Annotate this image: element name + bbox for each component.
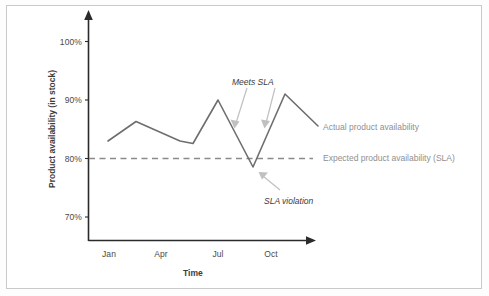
y-tick-label-100: 100%	[52, 37, 82, 47]
x-axis-title: Time	[183, 268, 203, 278]
chart-figure: 100% 90% 80% 70% Jan Apr Jul Oct Product…	[0, 0, 489, 296]
meets-sla-arrow-right-head	[261, 120, 270, 129]
y-axis-title: Product availability (in stock)	[47, 70, 57, 188]
legend-label-actual: Actual product availability	[323, 122, 419, 132]
x-tick-label-jan: Jan	[89, 249, 129, 259]
annotation-meets-sla: Meets SLA	[232, 77, 274, 87]
annotation-sla-violation: SLA violation	[264, 196, 313, 206]
meets-sla-arrow-left-shaft	[236, 88, 247, 123]
legend-label-expected: Expected product availability (SLA)	[323, 153, 455, 163]
y-axis-arrowhead	[84, 10, 93, 20]
sla-violation-arrow-shaft	[263, 176, 280, 190]
x-tick-label-oct: Oct	[251, 249, 291, 259]
x-axis-arrowhead	[306, 236, 316, 245]
actual-availability-line	[108, 94, 318, 167]
y-tick-label-70: 70%	[52, 212, 82, 222]
x-tick-label-jul: Jul	[198, 249, 238, 259]
meets-sla-arrow-right-shaft	[266, 88, 275, 123]
x-tick-label-apr: Apr	[141, 249, 181, 259]
